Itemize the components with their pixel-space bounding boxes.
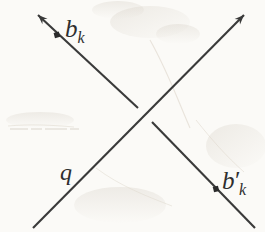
label-b-k-prime-subscript: k: [239, 181, 246, 198]
label-b-k-subscript: k: [78, 29, 85, 46]
point-b-k-dot: [54, 32, 61, 39]
label-q-base: q: [60, 159, 72, 185]
label-b-k: bk: [65, 16, 85, 41]
crossing-vectors-figure: bk b′k q: [0, 0, 265, 232]
label-b-k-prime-base: b: [222, 167, 235, 194]
label-b-k-base: b: [65, 15, 78, 42]
label-q: q: [60, 160, 72, 184]
ascending-arrow-line: [33, 15, 244, 228]
vector-lines-layer: [0, 0, 265, 232]
label-b-k-prime: b′k: [222, 168, 246, 193]
descending-arrow-segment-upper: [38, 15, 138, 108]
